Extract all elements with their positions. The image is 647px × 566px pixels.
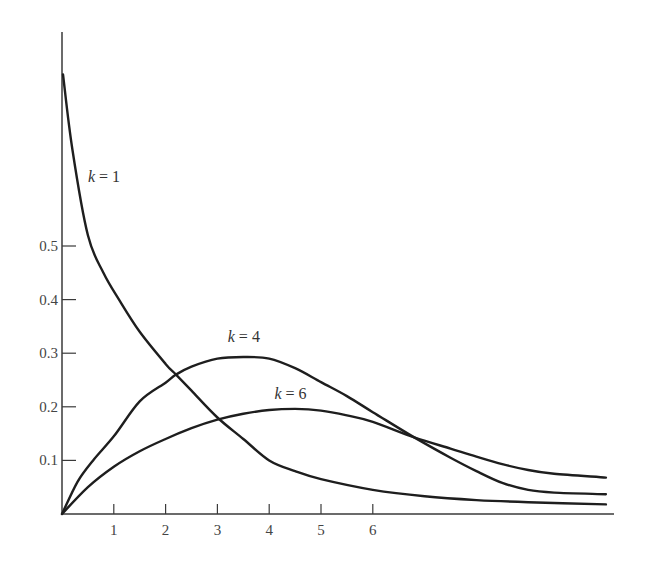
series-label-value: = 4 bbox=[235, 328, 260, 345]
curve-k6 bbox=[62, 409, 606, 514]
chart: 123456 0.10.20.30.40.5 k = 1k = 4k = 6 bbox=[0, 0, 647, 566]
series-label-value: = 6 bbox=[281, 385, 306, 402]
x-tick-label: 2 bbox=[162, 522, 170, 538]
y-tick-label: 0.2 bbox=[39, 399, 58, 415]
axes bbox=[62, 32, 614, 514]
y-tick-label: 0.3 bbox=[39, 345, 58, 361]
x-tick-label: 6 bbox=[369, 522, 377, 538]
curve-k4 bbox=[62, 357, 606, 514]
x-ticks: 123456 bbox=[110, 504, 377, 538]
series-label: k = 4 bbox=[228, 328, 260, 345]
y-ticks: 0.10.20.30.40.5 bbox=[39, 238, 76, 468]
y-tick-label: 0.1 bbox=[39, 452, 58, 468]
curve-k1 bbox=[63, 75, 606, 505]
y-tick-label: 0.4 bbox=[39, 292, 58, 308]
series-label: k = 1 bbox=[88, 168, 120, 185]
series-label-value: = 1 bbox=[95, 168, 120, 185]
x-tick-label: 3 bbox=[214, 522, 222, 538]
x-tick-label: 1 bbox=[110, 522, 118, 538]
x-tick-label: 5 bbox=[317, 522, 325, 538]
y-tick-label: 0.5 bbox=[39, 238, 58, 254]
x-tick-label: 4 bbox=[265, 522, 273, 538]
curves bbox=[62, 75, 606, 515]
series-labels: k = 1k = 4k = 6 bbox=[88, 168, 307, 402]
series-label: k = 6 bbox=[274, 385, 306, 402]
